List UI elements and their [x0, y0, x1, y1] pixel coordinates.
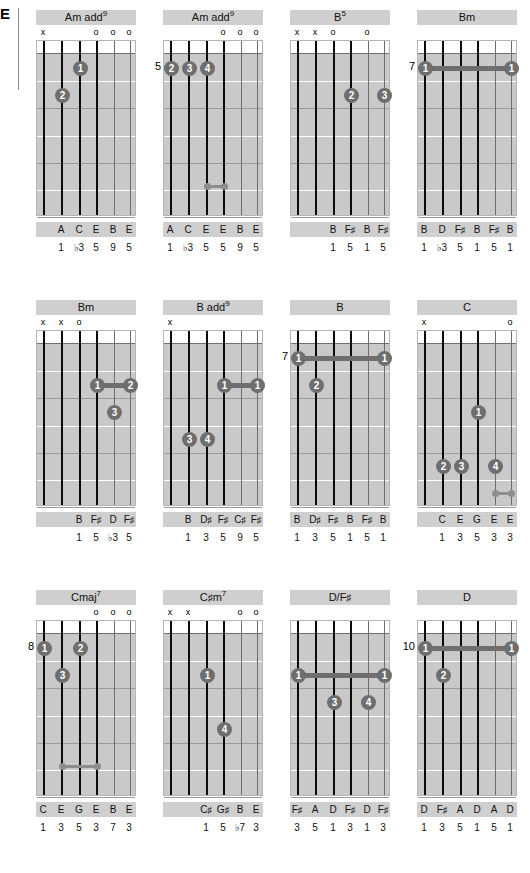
- interval-label: 3: [375, 821, 392, 835]
- fret-line: [164, 480, 262, 481]
- finger-dot: 4: [200, 61, 215, 76]
- note-name: F♯: [88, 512, 105, 528]
- interval-label: 1: [375, 531, 392, 545]
- fretboard: 23: [290, 40, 390, 216]
- fret-line: [418, 163, 516, 164]
- interval-label: 1: [325, 241, 342, 255]
- interval-label: 5: [198, 241, 215, 255]
- note-name: E: [121, 222, 138, 237]
- note-name: C♯: [198, 802, 215, 818]
- interval-row: 1♭3595: [36, 241, 136, 255]
- note-name: E: [198, 222, 215, 237]
- note-name: D♯: [198, 512, 215, 528]
- note-name: B: [375, 512, 392, 527]
- guitar-string: [170, 621, 172, 795]
- interval-label: ♭3: [71, 241, 88, 255]
- open-string-marker: o: [252, 27, 261, 38]
- open-string-marker: o: [236, 607, 245, 618]
- fret-line: [291, 163, 389, 164]
- fret-line: [418, 661, 516, 662]
- interval-row: 1♭35151: [417, 241, 517, 255]
- string-state-markers: xxoo: [163, 607, 263, 618]
- nut-row: [164, 621, 262, 634]
- chord-title: B add9: [163, 300, 263, 315]
- finger-dot: 4: [217, 722, 232, 737]
- fret-line: [418, 108, 516, 109]
- guitar-string: [241, 41, 242, 215]
- fret-position-number: 5: [145, 61, 161, 72]
- nut-row: [291, 41, 389, 54]
- chord-diagram: B1127BD♯F♯BF♯B135151: [276, 300, 403, 590]
- fret-line: [164, 217, 262, 218]
- note-name: E: [248, 802, 265, 817]
- note-name: C: [434, 512, 451, 527]
- interval-label: 5: [307, 821, 324, 835]
- note-name: F♯: [486, 222, 503, 238]
- chord-diagram: Am add9xooo12ACEBE1♭3595: [22, 10, 149, 300]
- finger-dot: 1: [291, 668, 306, 683]
- chord-title: Bm: [36, 300, 136, 315]
- guitar-string: [511, 331, 512, 505]
- fret-line: [164, 371, 262, 372]
- unison-endpoint: [59, 763, 66, 770]
- guitar-string: [297, 41, 299, 215]
- chord-grid: Am add9xooo12ACEBE1♭3595Am add9ooo2345AC…: [22, 10, 530, 873]
- fret-line: [37, 480, 135, 481]
- fret-line: [291, 217, 389, 218]
- guitar-string: [315, 621, 317, 795]
- note-names-band: DF♯ADAD: [417, 802, 517, 817]
- open-string-marker: o: [75, 317, 84, 328]
- barre-bar: [425, 646, 511, 651]
- guitar-string: [315, 41, 317, 215]
- interval-row: 135373: [36, 821, 136, 835]
- fret-line: [418, 716, 516, 717]
- finger-dot: 1: [37, 641, 52, 656]
- finger-dot: 1: [418, 641, 433, 656]
- guitar-string: [206, 621, 208, 795]
- interval-label: 1: [325, 821, 342, 835]
- interval-label: 5: [121, 241, 138, 255]
- interval-label: 5: [469, 531, 486, 545]
- interval-label: 1: [502, 241, 519, 255]
- interval-label: 3: [502, 531, 519, 545]
- guitar-string: [96, 331, 98, 505]
- fret-line: [291, 507, 389, 508]
- guitar-string: [333, 41, 335, 215]
- fretboard: 112: [417, 620, 517, 796]
- interval-label: 3: [88, 821, 105, 835]
- nut-row: [418, 621, 516, 634]
- nut-row: [37, 621, 135, 634]
- fret-line: [37, 190, 135, 191]
- fretboard: 1134: [163, 330, 263, 506]
- interval-label: 5: [452, 241, 469, 255]
- finger-dot: 1: [200, 668, 215, 683]
- fret-line: [418, 480, 516, 481]
- open-string-marker: o: [109, 607, 118, 618]
- unison-endpoint: [508, 490, 515, 497]
- fret-line: [37, 217, 135, 218]
- interval-label: 1: [469, 821, 486, 835]
- interval-row: 135151: [290, 531, 390, 545]
- fretboard: 14: [163, 620, 263, 796]
- fret-position-number: 7: [272, 351, 288, 362]
- fret-position-number: 7: [399, 61, 415, 72]
- fret-line: [37, 136, 135, 137]
- note-name: E: [53, 802, 70, 817]
- interval-row: 13533: [417, 531, 517, 545]
- string-state-markers: xooo: [36, 27, 136, 38]
- guitar-string: [206, 331, 208, 505]
- guitar-string: [495, 331, 496, 505]
- fret-line: [291, 716, 389, 717]
- page-edge-letter: E: [0, 6, 12, 24]
- note-name: B: [180, 512, 197, 527]
- finger-dot: 2: [344, 88, 359, 103]
- fret-line: [37, 716, 135, 717]
- fretboard: 1134: [290, 620, 390, 796]
- note-name: E: [88, 802, 105, 817]
- note-names-band: F♯ADF♯DF♯: [290, 802, 390, 817]
- finger-dot: 1: [504, 641, 519, 656]
- fret-line: [291, 81, 389, 82]
- fret-line: [37, 797, 135, 798]
- note-name: B: [105, 222, 122, 237]
- note-name: E: [248, 222, 265, 237]
